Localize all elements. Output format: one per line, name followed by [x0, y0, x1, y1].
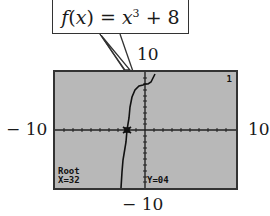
- x-readout: X=32: [58, 176, 80, 185]
- y-min-label: − 10: [122, 194, 163, 214]
- y-max-label: 10: [137, 44, 159, 64]
- x-min-label: − 10: [6, 119, 47, 139]
- function-label: f(x) = x3 + 8: [61, 6, 179, 28]
- function-callout: f(x) = x3 + 8: [52, 0, 189, 34]
- graph-indicator: 1: [227, 75, 232, 84]
- x-max-label: 10: [248, 119, 270, 139]
- calculator-screen: 1 Root X=32 Y=04: [53, 70, 238, 190]
- graph-plot: [55, 72, 236, 188]
- y-readout: Y=04: [147, 176, 169, 185]
